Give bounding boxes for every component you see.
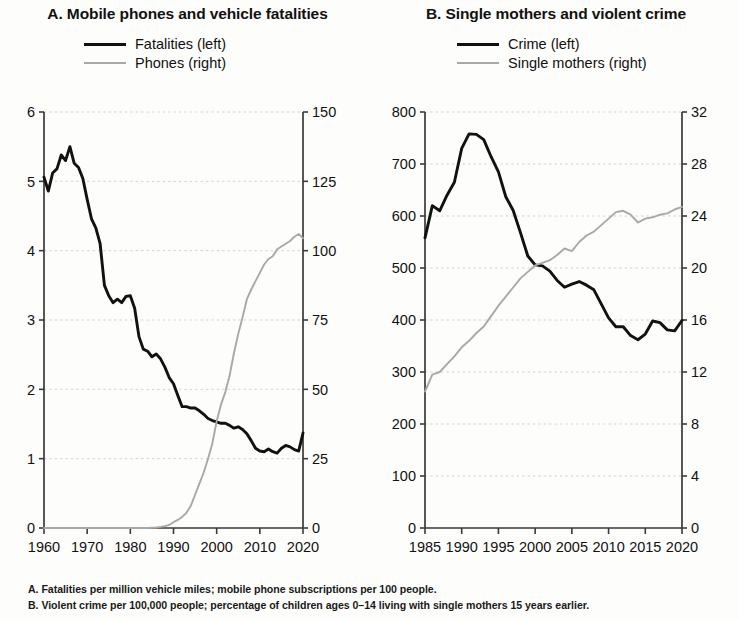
tick-label-left: 1 (27, 451, 35, 467)
tick-label-x: 2010 (592, 539, 624, 555)
tick-label-right: 125 (312, 174, 336, 190)
panel-a-svg: 0123456025507510012515019601970198019902… (0, 96, 369, 570)
tick-label-right: 16 (691, 312, 707, 328)
legend-item-phones: Phones (right) (84, 55, 369, 71)
legend-swatch-crime (457, 43, 499, 46)
tick-label-x: 2020 (666, 539, 698, 555)
legend-item-fatalities: Fatalities (left) (84, 36, 369, 52)
legend-label-single-mothers: Single mothers (right) (508, 55, 647, 71)
tick-label-right: 150 (312, 104, 336, 120)
tick-label-x: 1970 (71, 539, 103, 555)
tick-label-left: 4 (27, 243, 35, 259)
tick-label-right: 20 (691, 260, 707, 276)
panels-row: A. Mobile phones and vehicle fatalities … (0, 0, 739, 570)
tick-label-x: 2020 (287, 539, 319, 555)
panel-b-title: B. Single mothers and violent crime (369, 5, 739, 23)
tick-label-right: 100 (312, 243, 336, 259)
legend-label-fatalities: Fatalities (left) (135, 36, 226, 52)
tick-label-left: 200 (392, 416, 416, 432)
tick-label-left: 0 (408, 520, 416, 536)
figure-container: A. Mobile phones and vehicle fatalities … (0, 0, 739, 621)
legend-item-crime: Crime (left) (457, 36, 739, 52)
panel-a: A. Mobile phones and vehicle fatalities … (0, 0, 369, 570)
tick-label-x: 2000 (201, 539, 233, 555)
tick-label-left: 300 (392, 364, 416, 380)
tick-label-left: 2 (27, 382, 35, 398)
tick-label-left: 800 (392, 104, 416, 120)
panel-a-title: A. Mobile phones and vehicle fatalities (0, 5, 369, 23)
footnote-a: A. Fatalities per million vehicle miles;… (28, 582, 739, 598)
series-line (425, 134, 682, 340)
tick-label-right: 0 (691, 520, 699, 536)
tick-label-right: 32 (691, 104, 707, 120)
tick-label-right: 12 (691, 364, 707, 380)
tick-label-x: 1980 (114, 539, 146, 555)
tick-label-left: 100 (392, 468, 416, 484)
legend-label-phones: Phones (right) (135, 55, 226, 71)
legend-swatch-single-mothers (457, 62, 499, 64)
tick-label-x: 2000 (519, 539, 551, 555)
tick-label-left: 3 (27, 312, 35, 328)
tick-label-x: 1995 (482, 539, 514, 555)
panel-a-legend: Fatalities (left) Phones (right) (0, 36, 369, 74)
legend-item-single-mothers: Single mothers (right) (457, 55, 739, 71)
legend-label-crime: Crime (left) (508, 36, 580, 52)
legend-swatch-phones (84, 62, 126, 64)
footnotes: A. Fatalities per million vehicle miles;… (0, 582, 739, 613)
tick-label-right: 8 (691, 416, 699, 432)
tick-label-left: 5 (27, 174, 35, 190)
tick-label-x: 1960 (28, 539, 60, 555)
tick-label-left: 6 (27, 104, 35, 120)
tick-label-right: 50 (312, 382, 328, 398)
footnote-b: B. Violent crime per 100,000 people; per… (28, 598, 739, 614)
series-line (44, 147, 303, 453)
series-line (425, 207, 682, 392)
tick-label-right: 0 (312, 520, 320, 536)
panel-b-svg: 0100200300400500600700800048121620242832… (369, 96, 739, 570)
tick-label-right: 4 (691, 468, 699, 484)
series-line (44, 234, 303, 528)
panel-a-plot: 0123456025507510012515019601970198019902… (0, 96, 369, 570)
tick-label-x: 2015 (629, 539, 661, 555)
tick-label-x: 2010 (244, 539, 276, 555)
tick-label-left: 500 (392, 260, 416, 276)
tick-label-right: 75 (312, 312, 328, 328)
tick-label-x: 1990 (446, 539, 478, 555)
legend-swatch-fatalities (84, 43, 126, 46)
tick-label-left: 600 (392, 208, 416, 224)
tick-label-x: 1990 (157, 539, 189, 555)
tick-label-left: 400 (392, 312, 416, 328)
tick-label-x: 1985 (409, 539, 441, 555)
tick-label-right: 24 (691, 208, 707, 224)
tick-label-x: 2005 (556, 539, 588, 555)
tick-label-left: 700 (392, 156, 416, 172)
panel-b-legend: Crime (left) Single mothers (right) (369, 36, 739, 74)
tick-label-left: 0 (27, 520, 35, 536)
panel-b: B. Single mothers and violent crime Crim… (369, 0, 739, 570)
panel-b-plot: 0100200300400500600700800048121620242832… (369, 96, 739, 570)
tick-label-right: 25 (312, 451, 328, 467)
tick-label-right: 28 (691, 156, 707, 172)
